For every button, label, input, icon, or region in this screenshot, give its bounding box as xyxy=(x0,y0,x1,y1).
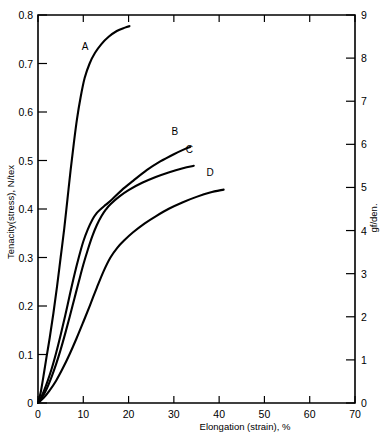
curve-C xyxy=(38,166,194,403)
y-axis-right-ticks: 0123456789 xyxy=(346,9,367,409)
x-tick-label: 70 xyxy=(349,408,361,420)
x-tick-label: 20 xyxy=(123,408,135,420)
y-tick-label-left: 0.6 xyxy=(18,106,33,118)
curve-label-C: C xyxy=(186,144,193,155)
x-axis-ticks: 010203040506070 xyxy=(35,15,361,420)
y-tick-label-left: 0.7 xyxy=(18,58,33,70)
chart-svg: 010203040506070 00.10.20.30.40.50.60.70.… xyxy=(0,0,383,441)
y-tick-label-right: 6 xyxy=(361,138,367,150)
y-tick-label-right: 0 xyxy=(361,397,367,409)
y-tick-label-right: 4 xyxy=(361,225,367,237)
y-axis-left-ticks: 00.10.20.30.40.50.60.70.8 xyxy=(18,9,47,409)
y-tick-label-right: 5 xyxy=(361,181,367,193)
y-tick-label-left: 0.8 xyxy=(18,9,33,21)
y-tick-label-left: 0 xyxy=(27,397,33,409)
y-tick-label-right: 2 xyxy=(361,311,367,323)
y-tick-label-left: 0.3 xyxy=(18,252,33,264)
curve-B xyxy=(38,147,190,403)
y-tick-label-left: 0.1 xyxy=(18,349,33,361)
x-tick-label: 10 xyxy=(77,408,89,420)
x-tick-label: 30 xyxy=(168,408,180,420)
y-tick-label-right: 3 xyxy=(361,268,367,280)
y-tick-label-left: 0.2 xyxy=(18,300,33,312)
y-tick-label-left: 0.5 xyxy=(18,155,33,167)
axis-titles: Elongation (strain), % Tenacity(stress),… xyxy=(5,165,379,432)
curve-A xyxy=(38,26,129,403)
curve-label-D: D xyxy=(206,167,213,178)
y-axis-title-right: gf/den. xyxy=(368,203,379,232)
x-tick-label: 50 xyxy=(259,408,271,420)
stress-strain-chart: 010203040506070 00.10.20.30.40.50.60.70.… xyxy=(0,0,383,441)
y-tick-label-left: 0.4 xyxy=(18,203,33,215)
x-axis-title: Elongation (strain), % xyxy=(200,421,291,432)
y-axis-title-left: Tenacity(stress), N/tex xyxy=(5,165,16,259)
y-tick-label-right: 9 xyxy=(361,9,367,21)
curve-label-A: A xyxy=(82,41,89,52)
x-tick-label: 40 xyxy=(213,408,225,420)
x-tick-label: 0 xyxy=(35,408,41,420)
y-tick-label-right: 1 xyxy=(361,354,367,366)
x-tick-label: 60 xyxy=(304,408,316,420)
curve-labels: ABCD xyxy=(82,41,214,178)
curve-label-B: B xyxy=(171,126,178,137)
data-curves xyxy=(38,26,224,403)
y-tick-label-right: 8 xyxy=(361,52,367,64)
y-tick-label-right: 7 xyxy=(361,95,367,107)
